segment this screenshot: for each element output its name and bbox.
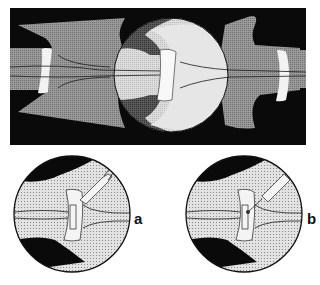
panel-b (186, 156, 302, 272)
magnified-joint (114, 18, 228, 132)
panel-a (14, 156, 130, 272)
panel-label-b: b (307, 211, 316, 226)
anatomical-illustration (0, 0, 320, 285)
top-panel (10, 8, 306, 145)
panel-label-a: a (134, 211, 142, 226)
